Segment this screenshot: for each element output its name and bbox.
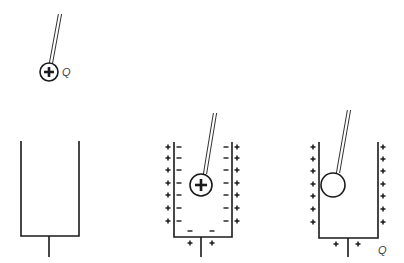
insulating-rod <box>340 110 351 173</box>
charged-ball <box>321 173 345 197</box>
charge-label-q-3: Q <box>378 244 387 256</box>
insulating-rod <box>336 110 347 173</box>
metal-cup <box>21 141 79 236</box>
panel-3 <box>311 110 386 257</box>
panel-2 <box>166 113 240 257</box>
charge-label-q-1: Q <box>62 66 71 78</box>
diagram-canvas <box>0 0 404 263</box>
panel-1 <box>21 14 79 257</box>
